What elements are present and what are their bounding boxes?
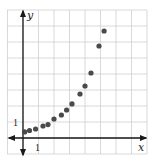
data-point	[33, 126, 38, 131]
data-point	[40, 123, 45, 128]
data-point	[82, 83, 87, 88]
data-point	[102, 28, 107, 33]
data-point	[45, 122, 50, 127]
x-tick-label-1: 1	[35, 142, 40, 153]
data-point	[96, 43, 101, 48]
data-point	[64, 107, 69, 112]
axes	[9, 11, 146, 155]
data-point	[27, 128, 32, 133]
x-axis-label: x	[138, 141, 145, 154]
y-tick-label-1: 1	[13, 117, 18, 128]
data-point	[59, 112, 64, 117]
y-axis-label: y	[26, 9, 34, 22]
data-point	[51, 116, 56, 121]
data-point	[88, 70, 93, 75]
data-point	[69, 101, 74, 106]
data-point	[77, 91, 82, 96]
data-points	[22, 28, 107, 134]
scatter-plot: y x 1 1	[0, 0, 149, 161]
data-point	[22, 129, 27, 134]
